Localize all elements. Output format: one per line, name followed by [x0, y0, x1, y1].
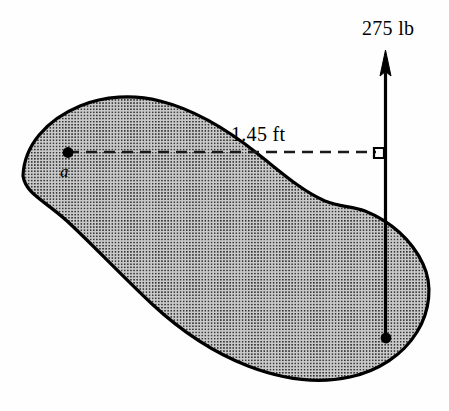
mechanics-diagram	[0, 0, 449, 411]
figure-canvas: 275 lb 1.45 ft a	[0, 0, 449, 411]
point-a-label: a	[60, 163, 69, 180]
point-a-dot	[63, 147, 74, 158]
force-arrowhead-icon	[380, 50, 391, 76]
force-magnitude-label: 275 lb	[362, 18, 414, 38]
force-application-point-dot	[381, 333, 392, 344]
moment-arm-label: 1.45 ft	[231, 124, 285, 144]
rigid-body-shape	[23, 97, 429, 380]
body-outline	[23, 97, 429, 380]
